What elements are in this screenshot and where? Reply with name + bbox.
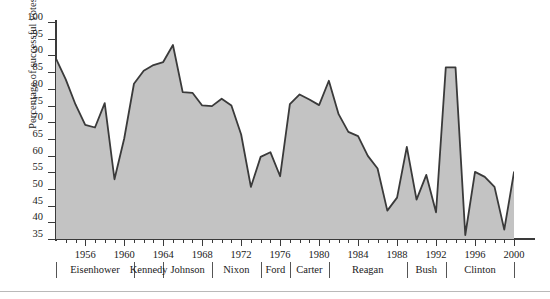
president-divider <box>329 262 330 278</box>
president-divider <box>56 262 57 278</box>
y-tick-label: 85 <box>13 66 43 67</box>
x-tick-minor <box>348 239 349 243</box>
footer-rule <box>0 291 550 292</box>
plot-area: 35404550556065707580859095100 1956196019… <box>56 22 514 239</box>
president-label-eisenhower: Eisenhower <box>70 264 120 275</box>
x-tick-minor <box>192 239 193 243</box>
x-tick-minor <box>115 239 116 243</box>
x-tick-minor <box>417 239 418 243</box>
x-tick-major <box>319 239 320 246</box>
president-label-bush: Bush <box>416 264 438 275</box>
y-tick: 35 <box>48 239 56 240</box>
x-tick-minor <box>173 239 174 243</box>
x-tick-label: 1988 <box>387 249 408 260</box>
y-tick: 40 <box>48 222 56 223</box>
x-tick-major <box>280 239 281 246</box>
y-tick: 65 <box>48 139 56 140</box>
y-tick: 100 <box>48 22 56 23</box>
chart-figure: Percentage of successful votes 354045505… <box>0 0 550 299</box>
x-tick-minor <box>407 239 408 243</box>
president-label-reagan: Reagan <box>352 264 384 275</box>
x-tick-major <box>475 239 476 246</box>
x-tick-minor <box>309 239 310 243</box>
president-label-clinton: Clinton <box>464 264 496 275</box>
x-tick-minor <box>465 239 466 243</box>
y-tick: 50 <box>48 189 56 190</box>
y-tick-label: 90 <box>13 49 43 50</box>
x-tick-label: 1984 <box>348 249 369 260</box>
y-tick-label: 100 <box>13 16 43 17</box>
x-tick-minor <box>495 239 496 243</box>
x-tick-minor <box>456 239 457 243</box>
x-tick-label: 1956 <box>75 249 96 260</box>
y-tick-label: 95 <box>13 33 43 34</box>
x-tick-major <box>202 239 203 246</box>
x-tick-minor <box>387 239 388 243</box>
x-tick-minor <box>290 239 291 243</box>
x-tick-minor <box>95 239 96 243</box>
x-tick-minor <box>261 239 262 243</box>
x-tick-label: 2000 <box>504 249 525 260</box>
x-tick-minor <box>485 239 486 243</box>
x-tick-minor <box>153 239 154 243</box>
y-tick: 70 <box>48 122 56 123</box>
y-tick: 80 <box>48 89 56 90</box>
y-tick-label: 65 <box>13 133 43 134</box>
x-tick-label: 1980 <box>309 249 330 260</box>
president-divider <box>446 262 447 278</box>
x-tick-major <box>163 239 164 246</box>
x-tick-major <box>436 239 437 246</box>
president-term-band: EisenhowerKennedyJohnsonNixonFordCarterR… <box>0 262 550 290</box>
x-tick-minor <box>134 239 135 243</box>
x-tick-minor <box>212 239 213 243</box>
y-tick: 45 <box>48 206 56 207</box>
president-label-ford: Ford <box>265 264 285 275</box>
x-tick-minor <box>329 239 330 243</box>
y-tick-label: 70 <box>13 116 43 117</box>
x-tick-minor <box>144 239 145 243</box>
y-tick-label: 50 <box>13 183 43 184</box>
president-label-johnson: Johnson <box>170 264 204 275</box>
president-divider <box>514 262 515 278</box>
x-tick-major <box>85 239 86 246</box>
president-divider <box>212 262 213 278</box>
president-label-nixon: Nixon <box>223 264 249 275</box>
president-divider <box>290 262 291 278</box>
y-tick-label: 60 <box>13 150 43 151</box>
y-tick-label: 80 <box>13 83 43 84</box>
success-rate-area-series <box>56 22 514 239</box>
x-tick-minor <box>222 239 223 243</box>
x-tick-minor <box>378 239 379 243</box>
y-tick: 85 <box>48 72 56 73</box>
x-tick-minor <box>426 239 427 243</box>
x-tick-major <box>358 239 359 246</box>
y-tick-label: 75 <box>13 100 43 101</box>
president-label-kennedy: Kennedy <box>130 264 168 275</box>
x-tick-minor <box>76 239 77 243</box>
x-tick-minor <box>300 239 301 243</box>
y-tick-label: 40 <box>13 216 43 217</box>
x-tick-label: 1968 <box>192 249 213 260</box>
x-tick-minor <box>251 239 252 243</box>
x-tick-major <box>397 239 398 246</box>
y-tick: 95 <box>48 39 56 40</box>
x-tick-minor <box>270 239 271 243</box>
x-tick-minor <box>66 239 67 243</box>
x-tick-label: 1964 <box>153 249 174 260</box>
x-tick-major <box>241 239 242 246</box>
x-tick-label: 1960 <box>114 249 135 260</box>
y-tick-label: 35 <box>13 233 43 234</box>
x-tick-minor <box>105 239 106 243</box>
x-tick-label: 1976 <box>270 249 291 260</box>
x-tick-minor <box>183 239 184 243</box>
x-tick-minor <box>446 239 447 243</box>
y-tick: 60 <box>48 156 56 157</box>
president-label-carter: Carter <box>296 264 322 275</box>
y-tick-label: 55 <box>13 166 43 167</box>
y-tick: 75 <box>48 106 56 107</box>
x-tick-minor <box>368 239 369 243</box>
x-tick-major <box>124 239 125 246</box>
y-tick: 90 <box>48 55 56 56</box>
x-tick-label: 1992 <box>426 249 447 260</box>
y-tick-label: 45 <box>13 200 43 201</box>
